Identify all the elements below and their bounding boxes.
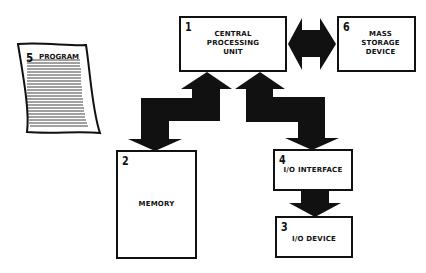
program-label: PROGRAM: [39, 53, 79, 61]
io-device-label: I/O DEVICE: [277, 235, 351, 244]
cpu-label: CENTRAL PROCESSING UNIT: [181, 30, 285, 57]
cpu-block: 1 CENTRAL PROCESSING UNIT: [179, 16, 287, 72]
mass-storage-label: MASS STORAGE DEVICE: [347, 30, 414, 57]
memory-label: MEMORY: [118, 200, 195, 209]
memory-block: 2 MEMORY: [116, 150, 197, 259]
memory-number: 2: [122, 154, 129, 168]
io-device-block: 3 I/O DEVICE: [275, 216, 353, 258]
io-interface-block: 4 I/O INTERFACE: [273, 149, 353, 191]
io-interface-label: I/O INTERFACE: [275, 166, 351, 175]
program-block: 5PROGRAM: [25, 47, 79, 66]
io-interface-to-device-arrow: [289, 190, 341, 217]
mass-storage-block: 6 MASS STORAGE DEVICE: [337, 16, 416, 72]
io-interface-number: 4: [279, 153, 286, 167]
cpu-memory-double-arrow: [128, 72, 232, 151]
io-device-number: 3: [281, 220, 288, 234]
cpu-io-interface-double-arrow: [235, 72, 339, 150]
program-number: 5: [26, 50, 33, 65]
cpu-mass-storage-double-arrow: [288, 18, 336, 70]
